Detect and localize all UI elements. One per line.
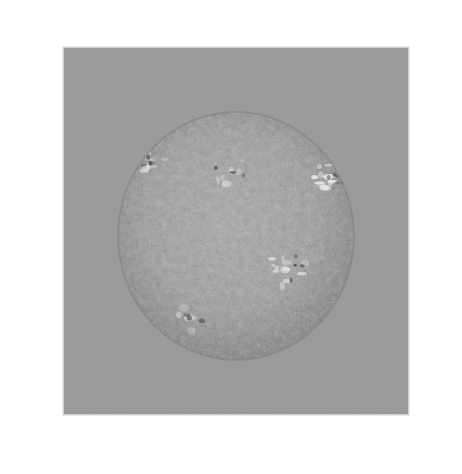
figure-canvas: [0, 0, 462, 474]
solar-field-line-figure: [0, 0, 462, 474]
